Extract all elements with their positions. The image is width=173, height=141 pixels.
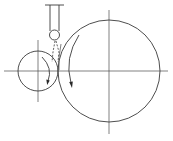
large-wheel-rotation-arrow-icon	[69, 35, 79, 88]
ball-tip	[50, 30, 60, 40]
feed-line-right	[56, 41, 59, 62]
diagram-canvas: Grinding/rolling mechanism: small roller…	[0, 0, 173, 141]
mechanism-diagram	[0, 0, 173, 141]
vertical-tool	[45, 5, 64, 40]
